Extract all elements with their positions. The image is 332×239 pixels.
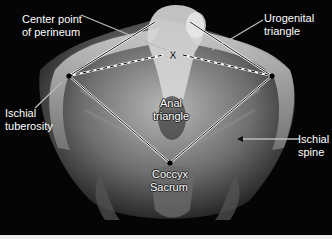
right-ischial-tuberosity-marker xyxy=(269,73,274,78)
label-anal-triangle: Anal triangle xyxy=(153,97,189,122)
anatomy-figure: X Center point of perineum Urogenital tr… xyxy=(0,0,332,235)
label-ischial-spine: Ischial spine xyxy=(298,133,329,158)
coccyx-marker xyxy=(167,160,172,165)
bottom-border xyxy=(0,235,332,239)
label-coccyx: Coccyx xyxy=(152,168,188,181)
left-ischial-tuberosity-marker xyxy=(66,73,71,78)
center-point-marker: X xyxy=(169,49,177,61)
label-ischial-tuberosity: Ischial tuberosity xyxy=(5,107,53,132)
label-urogenital-triangle: Urogenital triangle xyxy=(264,12,314,37)
label-center-point-of-perineum: Center point of perineum xyxy=(22,13,82,38)
label-sacrum: Sacrum xyxy=(150,181,188,194)
